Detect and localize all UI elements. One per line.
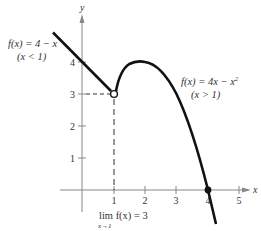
filled-point-marker (205, 187, 212, 194)
exponent: 2 (235, 75, 239, 83)
right-condition-label: (x > 1) (191, 89, 221, 101)
limit-subscript: x→1 (97, 222, 112, 230)
x-tick-label-1: 1 (112, 195, 117, 206)
left-condition-label: (x < 1) (17, 51, 47, 63)
y-tick-label-1: 1 (70, 153, 75, 164)
y-axis-arrow-icon (80, 14, 85, 23)
x-tick-label-3: 3 (174, 195, 179, 206)
limit-graph: y x 1 2 3 4 5 1 2 3 4 f(x) = 4 − x (x < … (0, 0, 261, 231)
y-axis-label: y (79, 2, 85, 13)
open-point-marker (111, 91, 118, 98)
right-function-label: f(x) = 4x − x2 (181, 75, 239, 88)
limit-label: lim f(x) = 3 (99, 210, 148, 222)
y-tick-label-3: 3 (70, 89, 75, 100)
left-function-label: f(x) = 4 − x (8, 38, 57, 50)
y-tick-label-2: 2 (70, 121, 75, 132)
y-tick-label-4: 4 (70, 57, 75, 68)
x-axis-label: x (252, 184, 258, 195)
x-tick-label-5: 5 (237, 195, 242, 206)
x-tick-label-2: 2 (143, 195, 148, 206)
x-axis-arrow-icon (242, 188, 251, 193)
